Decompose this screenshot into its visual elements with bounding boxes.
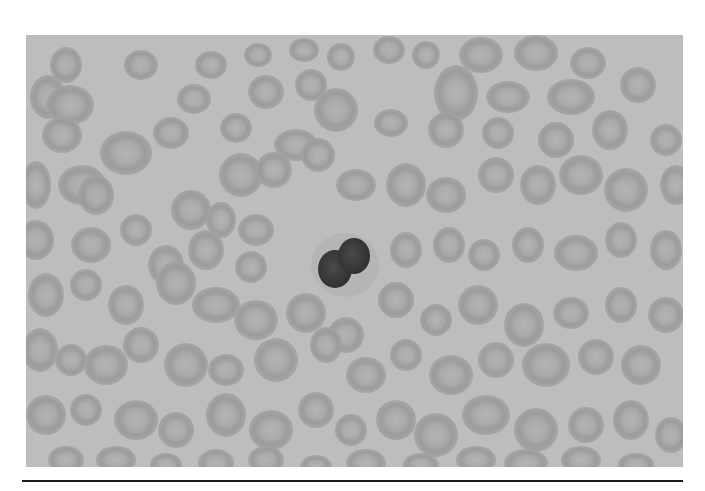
red-blood-cell	[108, 285, 144, 325]
red-blood-cell	[650, 124, 682, 156]
red-blood-cell	[26, 161, 51, 209]
red-blood-cell	[486, 81, 530, 113]
red-blood-cell	[561, 446, 601, 467]
red-blood-cell	[504, 303, 544, 347]
red-blood-cell	[429, 355, 473, 395]
red-blood-cell	[621, 345, 661, 385]
red-blood-cell	[482, 117, 514, 149]
red-blood-cell	[386, 163, 426, 207]
red-blood-cell	[412, 41, 440, 69]
red-blood-cell	[538, 122, 574, 158]
red-blood-cell	[208, 354, 244, 386]
red-blood-cell	[177, 84, 211, 114]
red-blood-cell	[570, 47, 606, 79]
red-blood-cell	[120, 214, 152, 246]
red-blood-cell	[414, 413, 458, 457]
red-blood-cell	[220, 113, 252, 143]
red-blood-cell	[256, 152, 292, 188]
red-blood-cell	[249, 410, 293, 450]
red-blood-cell	[301, 138, 335, 172]
red-blood-cell	[192, 287, 240, 323]
red-blood-cell	[336, 169, 376, 201]
red-blood-cell	[554, 235, 598, 271]
red-blood-cell	[553, 297, 589, 329]
red-blood-cell	[456, 446, 496, 467]
nucleus-lobe	[338, 238, 370, 274]
red-blood-cell	[219, 153, 263, 197]
red-blood-cell	[28, 273, 64, 317]
red-blood-cell	[426, 177, 466, 213]
red-blood-cell	[71, 227, 111, 263]
red-blood-cell	[289, 38, 319, 62]
red-blood-cell	[374, 109, 408, 137]
red-blood-cell	[655, 417, 683, 453]
red-blood-cell	[150, 453, 182, 467]
red-blood-cell	[378, 282, 414, 318]
red-blood-cell	[123, 327, 159, 363]
red-blood-cell	[314, 88, 358, 132]
red-blood-cell	[462, 395, 510, 435]
red-blood-cell	[420, 304, 452, 336]
red-blood-cell	[55, 344, 87, 376]
red-blood-cell	[158, 412, 194, 448]
red-blood-cell	[459, 37, 503, 73]
red-blood-cell	[620, 67, 656, 103]
red-blood-cell	[238, 214, 274, 246]
red-blood-cell	[298, 392, 334, 428]
red-blood-cell	[520, 165, 556, 205]
red-blood-cell	[433, 227, 465, 263]
red-blood-cell	[335, 414, 367, 446]
red-blood-cell	[42, 117, 82, 153]
horizontal-rule	[22, 480, 683, 482]
red-blood-cell	[458, 285, 498, 325]
red-blood-cell	[124, 50, 158, 80]
red-blood-cell	[286, 293, 326, 333]
red-blood-cell	[434, 65, 478, 121]
red-blood-cell	[547, 79, 595, 115]
red-blood-cell	[164, 343, 208, 387]
red-blood-cell	[373, 36, 405, 64]
red-blood-cell	[310, 327, 342, 363]
red-blood-cell	[504, 449, 548, 467]
red-blood-cell	[206, 393, 246, 437]
red-blood-cell	[568, 407, 604, 443]
red-blood-cell	[514, 408, 558, 452]
red-blood-cell	[578, 339, 614, 375]
red-blood-cell	[156, 261, 196, 305]
red-blood-cell	[514, 35, 558, 71]
red-blood-cell	[234, 300, 278, 340]
red-blood-cell	[346, 357, 386, 393]
red-blood-cell	[195, 51, 227, 79]
red-blood-cell	[114, 400, 158, 440]
red-blood-cell	[428, 112, 464, 148]
red-blood-cell	[605, 287, 637, 323]
red-blood-cell	[559, 155, 603, 195]
red-blood-cell	[248, 75, 284, 109]
red-blood-cell	[70, 269, 102, 301]
red-blood-cell	[512, 227, 544, 263]
red-blood-cell	[604, 168, 648, 212]
leukocyte	[311, 233, 379, 297]
red-blood-cell	[650, 230, 682, 270]
red-blood-cell	[26, 220, 54, 260]
red-blood-cell	[618, 453, 654, 467]
red-blood-cell	[26, 328, 58, 372]
red-blood-cell	[346, 449, 386, 467]
red-blood-cell	[390, 339, 422, 371]
red-blood-cell	[648, 297, 683, 333]
red-blood-cell	[171, 190, 211, 230]
red-blood-cell	[605, 222, 637, 258]
red-blood-cell	[660, 165, 683, 205]
red-blood-cell	[592, 110, 628, 150]
red-blood-cell	[188, 230, 224, 270]
red-blood-cell	[96, 446, 136, 467]
red-blood-cell	[153, 117, 189, 149]
red-blood-cell	[70, 394, 102, 426]
red-blood-cell	[235, 251, 267, 283]
red-blood-cell	[48, 446, 84, 467]
red-blood-cell	[478, 157, 514, 193]
red-blood-cell	[254, 338, 298, 382]
red-blood-cell	[468, 239, 500, 271]
red-blood-cell	[78, 175, 114, 215]
red-blood-cell	[478, 342, 514, 378]
